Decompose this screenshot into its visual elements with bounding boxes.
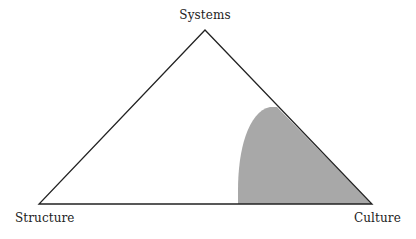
triangle-diagram: [0, 0, 416, 239]
vertex-label-systems: Systems: [179, 8, 230, 22]
vertex-label-structure: Structure: [15, 211, 75, 225]
shaded-region: [238, 107, 372, 204]
vertex-label-culture: Culture: [354, 211, 401, 225]
